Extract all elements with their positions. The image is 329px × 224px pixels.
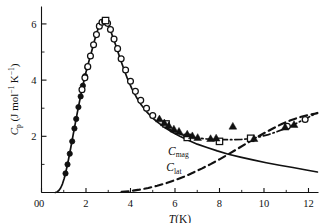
- marker-open-circle: [132, 88, 138, 94]
- y-axis-label: Cp (J mol−1 K−1): [7, 63, 22, 135]
- marker-open-circle: [123, 67, 129, 73]
- marker-filled-triangle: [229, 122, 237, 129]
- x-axis-label: T(K): [169, 213, 192, 224]
- curve-label-cmag: Cmag: [168, 145, 189, 160]
- x-tick-label-0: 0: [39, 198, 44, 209]
- marker-open-circle: [138, 97, 144, 103]
- marker-open-circle: [115, 46, 121, 52]
- marker-open-square: [102, 17, 108, 23]
- marker-open-circle: [108, 27, 114, 33]
- marker-open-circle: [128, 78, 134, 84]
- curve-label-clat: Clat: [166, 161, 182, 176]
- marker-open-circle: [85, 64, 91, 70]
- origin-zero-label: 0: [34, 198, 39, 209]
- x-tick-label-10: 10: [259, 198, 270, 209]
- marker-open-circle: [150, 113, 156, 119]
- marker-filled-circle: [65, 162, 70, 167]
- marker-open-circle: [79, 87, 85, 93]
- x-tick-label-6: 6: [172, 198, 177, 209]
- x-tick-label-8: 8: [217, 198, 222, 209]
- marker-open-circle: [82, 75, 88, 81]
- figure-heat-capacity: 0246810122460CmagClatT(K)Cp (J mol−1 K−1…: [0, 0, 329, 223]
- marker-filled-circle: [76, 104, 81, 109]
- x-tick-label-12: 12: [303, 198, 314, 209]
- marker-filled-circle: [78, 94, 83, 99]
- marker-filled-circle: [72, 126, 77, 131]
- svg-text:Cp (J mol−1 K−1): Cp (J mol−1 K−1): [7, 63, 22, 135]
- marker-filled-triangle: [156, 115, 164, 122]
- marker-filled-circle: [74, 116, 79, 121]
- marker-open-circle: [144, 105, 150, 111]
- marker-open-circle: [94, 32, 100, 38]
- marker-filled-circle: [67, 151, 72, 156]
- y-tick-label-6: 6: [31, 19, 36, 30]
- x-tick-label-2: 2: [83, 198, 88, 209]
- marker-open-circle: [302, 117, 308, 123]
- marker-filled-circle: [70, 139, 75, 144]
- marker-open-circle: [91, 42, 97, 48]
- svg-text:Cmag: Cmag: [168, 145, 189, 160]
- marker-open-circle: [88, 53, 94, 59]
- marker-filled-circle: [63, 171, 68, 176]
- y-tick-label-2: 2: [31, 131, 36, 142]
- svg-text:Clat: Clat: [166, 161, 182, 176]
- marker-filled-triangle: [290, 121, 298, 128]
- y-tick-label-4: 4: [31, 75, 37, 86]
- x-tick-label-4: 4: [128, 198, 134, 209]
- marker-open-circle: [111, 36, 117, 42]
- marker-open-circle: [118, 56, 124, 62]
- chart-canvas: 0246810122460CmagClatT(K)Cp (J mol−1 K−1…: [0, 0, 329, 223]
